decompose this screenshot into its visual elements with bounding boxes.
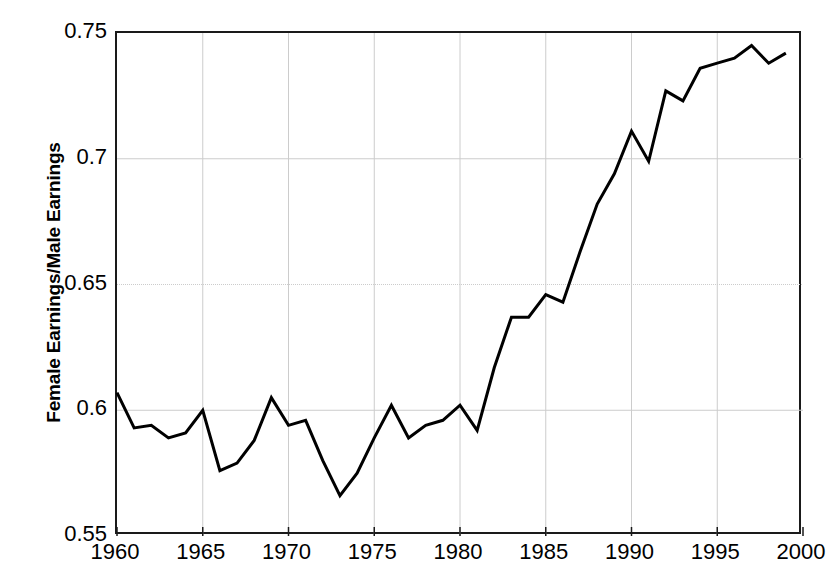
plot-area bbox=[115, 31, 801, 534]
y-tick-label: 0.6 bbox=[7, 397, 107, 419]
y-tick-label: 0.7 bbox=[7, 146, 107, 168]
chart-figure: Female Earnings/Male Earnings 0.550.60.6… bbox=[0, 0, 838, 583]
y-tick-label: 0.65 bbox=[7, 272, 107, 294]
plot-svg bbox=[115, 31, 805, 538]
data-line-series bbox=[117, 46, 786, 496]
x-tick-label: 2000 bbox=[741, 539, 838, 565]
x-axis-tick-labels: 196019651970197519801985199019952000 bbox=[0, 539, 838, 583]
gridlines bbox=[117, 33, 803, 536]
y-tick-label: 0.75 bbox=[7, 20, 107, 42]
axis-ticks bbox=[117, 527, 803, 536]
y-axis-tick-labels: 0.550.60.650.70.75 bbox=[0, 0, 107, 583]
